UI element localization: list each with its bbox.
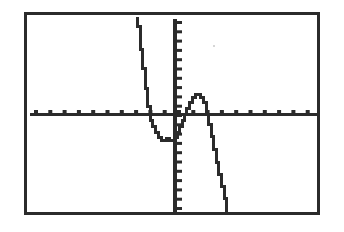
y-axis-tick (177, 95, 182, 98)
y-axis-tick (177, 30, 182, 33)
y-axis-tick (177, 77, 182, 80)
plot-area (27, 15, 317, 212)
x-axis-tick (263, 110, 267, 113)
y-axis-tick (177, 142, 182, 145)
y-axis-tick (177, 114, 182, 117)
x-axis-tick (120, 110, 124, 113)
x-axis-tick (91, 110, 95, 113)
x-axis-tick (34, 110, 38, 113)
y-axis-tick (177, 151, 182, 154)
x-axis-tick (191, 110, 195, 113)
x-axis-tick (234, 110, 238, 113)
y-axis-tick (177, 21, 182, 24)
curve-segment (225, 197, 228, 212)
x-axis-tick (63, 110, 67, 113)
y-axis-tick (177, 58, 182, 61)
x-axis-tick (134, 110, 138, 113)
y-axis-tick (177, 198, 182, 201)
x-axis-tick (48, 110, 52, 113)
x-axis-tick (249, 110, 253, 113)
y-axis-tick (177, 68, 182, 71)
x-axis-tick (220, 110, 224, 113)
y-axis-tick (177, 105, 182, 108)
screenshot-root (0, 0, 344, 232)
y-axis-line (173, 19, 177, 212)
x-axis-tick (163, 110, 167, 113)
x-axis-tick (291, 110, 295, 113)
y-axis-tick (177, 49, 182, 52)
y-axis (173, 19, 182, 212)
x-axis-tick (177, 110, 181, 113)
y-axis-tick (177, 161, 182, 164)
y-axis-tick (177, 188, 182, 191)
y-axis-tick (177, 179, 182, 182)
y-axis-tick (177, 40, 182, 43)
x-axis-tick (77, 110, 81, 113)
scan-speck (213, 45, 215, 47)
y-axis-tick (177, 170, 182, 173)
calculator-screen-frame (24, 12, 320, 215)
x-axis-tick (106, 110, 110, 113)
y-axis-tick (177, 207, 182, 210)
graph-canvas (27, 15, 317, 212)
x-axis-tick (306, 110, 310, 113)
y-axis-tick (177, 86, 182, 89)
x-axis-tick (277, 110, 281, 113)
